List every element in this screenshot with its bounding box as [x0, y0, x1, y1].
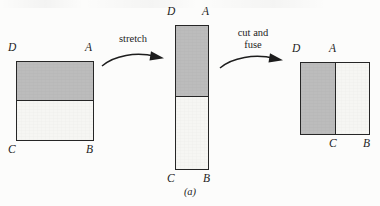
vertex-label-a-shape3: A: [329, 43, 336, 55]
vertex-label-d-shape1: D: [8, 42, 16, 54]
vertex-label-d-shape2: D: [167, 6, 175, 18]
stretch-arrow-icon: [100, 48, 170, 70]
shaded-band-top: [176, 26, 208, 97]
shaded-band-left: [301, 63, 336, 134]
vertex-label-c-shape2: C: [167, 173, 175, 185]
vertex-label-c-shape1: C: [8, 144, 16, 156]
vertex-label-d-shape3: D: [292, 43, 300, 55]
scan-smudge: [0, 0, 380, 8]
vertex-label-b-shape2: B: [203, 173, 210, 185]
vertex-label-c-shape3: C: [329, 138, 337, 150]
vertex-label-b-shape1: B: [86, 144, 93, 156]
original-square: [16, 61, 94, 141]
cut-and-fuse-arrow-label: cut and fuse: [222, 27, 284, 50]
figure-panel-a: D A C B stretch D A C B cut and fuse D A…: [0, 0, 380, 206]
cut-and-fuse-arrow-icon: [218, 50, 290, 72]
vertex-label-a-shape2: A: [202, 6, 209, 18]
cut-and-fused-square: [300, 62, 370, 135]
shaded-band-top: [17, 62, 93, 101]
stretch-arrow-label: stretch: [102, 33, 164, 45]
figure-caption: (a): [160, 186, 220, 197]
stretched-rectangle: [175, 25, 209, 170]
vertex-label-b-shape3: B: [363, 138, 370, 150]
vertex-label-a-shape1: A: [85, 42, 92, 54]
